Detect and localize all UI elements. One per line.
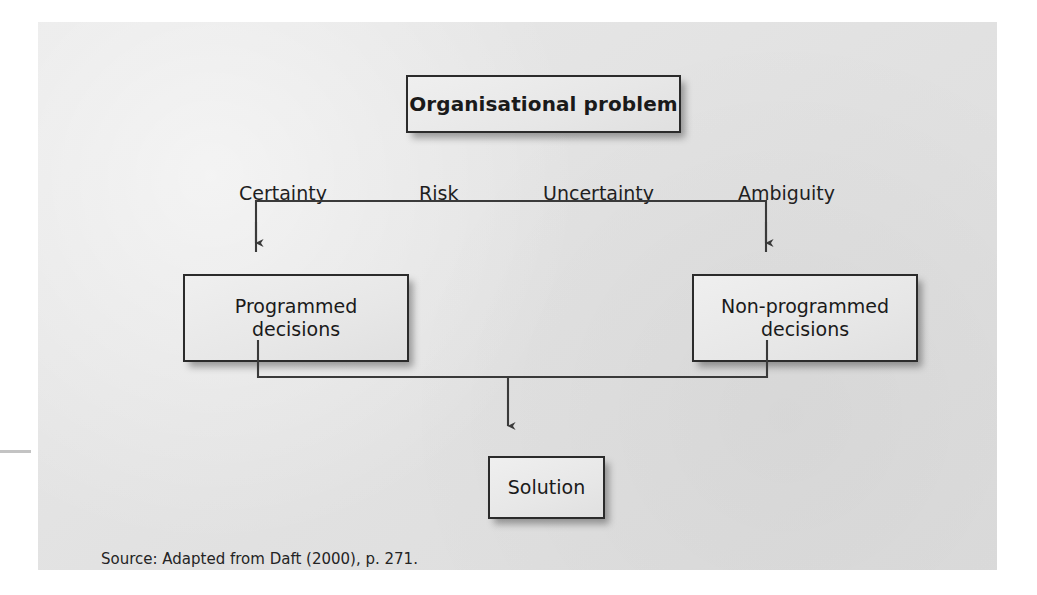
node-non-programmed-decisions[interactable]: Non-programmed decisions (692, 274, 918, 362)
continuum-label-certainty: Certainty (239, 182, 327, 204)
node-non-programmed-decisions-label: Non-programmed decisions (721, 295, 889, 341)
node-programmed-decisions-line2: decisions (252, 318, 340, 340)
node-organisational-problem-label: Organisational problem (409, 92, 678, 116)
node-non-programmed-decisions-line2: decisions (761, 318, 849, 340)
source-caption: Source: Adapted from Daft (2000), p. 271… (101, 550, 418, 568)
node-programmed-decisions[interactable]: Programmed decisions (183, 274, 409, 362)
node-solution-label: Solution (508, 476, 585, 499)
continuum-label-ambiguity: Ambiguity (738, 182, 835, 204)
continuum-label-uncertainty: Uncertainty (543, 182, 654, 204)
page-edge-mark (0, 450, 31, 453)
node-organisational-problem[interactable]: Organisational problem (406, 75, 681, 133)
page-canvas: Organisational problem Certainty Risk Un… (0, 0, 1037, 595)
figure-panel: Organisational problem Certainty Risk Un… (38, 22, 997, 570)
node-non-programmed-decisions-line1: Non-programmed (721, 295, 889, 317)
continuum-label-risk: Risk (419, 182, 458, 204)
node-solution[interactable]: Solution (488, 456, 605, 519)
node-programmed-decisions-line1: Programmed (235, 295, 357, 317)
node-programmed-decisions-label: Programmed decisions (235, 295, 357, 341)
